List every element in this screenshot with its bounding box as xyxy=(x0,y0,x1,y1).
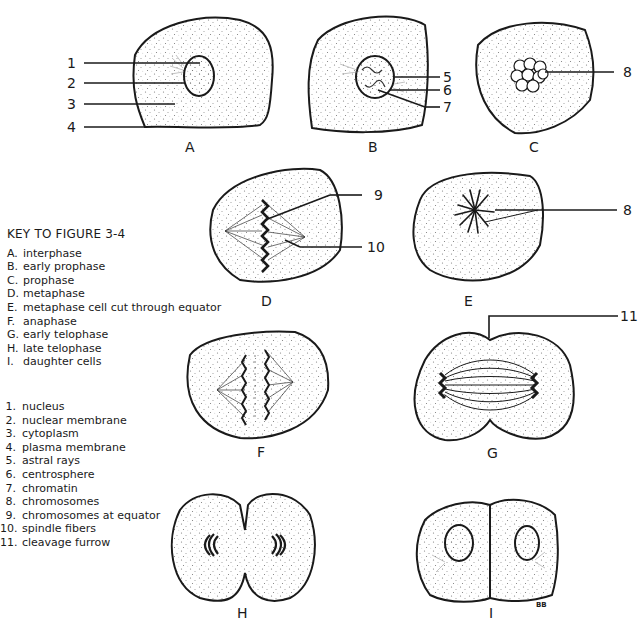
key-part-row: 8.chromosomes xyxy=(0,495,160,509)
cell-h-late-telophase xyxy=(172,494,315,601)
key-part-row: 2.nuclear membrane xyxy=(0,414,160,428)
nucleus-a xyxy=(184,56,214,96)
caption-c: C xyxy=(529,140,539,154)
callout-8b: 8 xyxy=(623,203,632,217)
callout-8a: 8 xyxy=(623,65,632,79)
cell-i-daughter-cells xyxy=(417,500,558,602)
callout-2: 2 xyxy=(67,76,76,90)
key-stage-row: G.early telophase xyxy=(7,328,221,342)
callout-10: 10 xyxy=(367,240,385,254)
caption-i: I xyxy=(489,606,493,620)
cell-b-early-prophase xyxy=(309,17,440,133)
callout-1: 1 xyxy=(67,56,76,70)
key-stage-row: I.daughter cells xyxy=(7,355,221,369)
callout-7: 7 xyxy=(443,100,452,114)
key-part-row: 4.plasma membrane xyxy=(0,441,160,455)
key-stage-row: A.interphase xyxy=(7,247,221,261)
callout-4: 4 xyxy=(67,120,76,134)
caption-a: A xyxy=(185,140,195,154)
key-part-row: 9.chromosomes at equator xyxy=(0,509,160,523)
key-stages: KEY TO FIGURE 3-4 A.interphase B.early p… xyxy=(7,228,221,369)
caption-f: F xyxy=(257,445,265,459)
key-part-row: 10.spindle fibers xyxy=(0,522,160,536)
key-title: KEY TO FIGURE 3-4 xyxy=(7,228,221,242)
key-part-row: 3.cytoplasm xyxy=(0,427,160,441)
key-part-row: 6.centrosphere xyxy=(0,468,160,482)
cell-c-prophase xyxy=(476,23,614,133)
callout-9: 9 xyxy=(374,188,383,202)
artist-signature: BB xyxy=(536,598,547,612)
key-part-row: 11.cleavage furrow xyxy=(0,536,160,550)
caption-g: G xyxy=(487,446,498,460)
key-part-row: 1.nucleus xyxy=(0,400,160,414)
caption-d: D xyxy=(261,294,272,308)
key-stage-row: C.prophase xyxy=(7,274,221,288)
key-part-row: 5.astral rays xyxy=(0,454,160,468)
cell-a-interphase xyxy=(84,18,273,128)
cell-d-metaphase xyxy=(210,169,362,282)
key-stage-row: B.early prophase xyxy=(7,260,221,274)
callout-3: 3 xyxy=(67,97,76,111)
callout-11: 11 xyxy=(620,309,638,323)
caption-e: E xyxy=(464,294,473,308)
key-stage-row: H.late telophase xyxy=(7,342,221,356)
caption-h: H xyxy=(237,606,248,620)
key-stage-row: E.metaphase cell cut through equator xyxy=(7,301,221,315)
cell-e-equator-section xyxy=(413,173,617,281)
key-stage-row: F.anaphase xyxy=(7,315,221,329)
callout-6: 6 xyxy=(443,83,452,97)
cell-g-early-telophase xyxy=(415,316,618,440)
key-stage-row: D.metaphase xyxy=(7,287,221,301)
key-parts: 1.nucleus 2.nuclear membrane 3.cytoplasm… xyxy=(0,400,160,550)
key-part-row: 7.chromatin xyxy=(0,482,160,496)
caption-b: B xyxy=(368,140,378,154)
